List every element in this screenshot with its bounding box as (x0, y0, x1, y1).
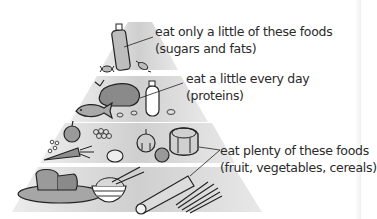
lemon-icon (107, 150, 123, 162)
tier-proteins-label: eat a little every day (proteins) (186, 70, 309, 104)
tier-plenty-label: eat plenty of these foods (fruit, vegeta… (220, 142, 377, 176)
tier-plenty-line1: eat plenty of these foods (220, 142, 377, 159)
pineapple-icon (170, 128, 198, 155)
tier-plenty-line2: (fruit, vegetables, cereals) (220, 159, 377, 176)
orange-icon (155, 148, 169, 162)
tier-top-line1: eat only a little of these foods (155, 23, 332, 40)
tier-top-label: eat only a little of these foods (sugars… (155, 23, 332, 57)
tier-proteins-line1: eat a little every day (186, 70, 309, 87)
tier-top-line2: (sugars and fats) (155, 40, 332, 57)
tier-fruit-vegetables (40, 121, 235, 163)
tier-proteins-line2: (proteins) (186, 87, 309, 104)
